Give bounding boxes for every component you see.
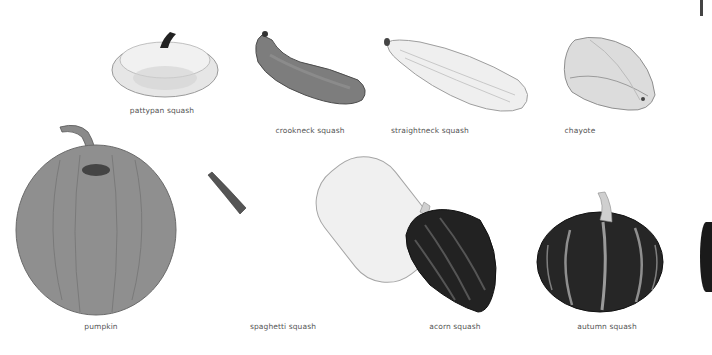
label-autumn-squash: autumn squash <box>577 322 636 331</box>
cropped-edge-squash <box>700 222 712 292</box>
cropped-edge-mark <box>700 0 703 16</box>
